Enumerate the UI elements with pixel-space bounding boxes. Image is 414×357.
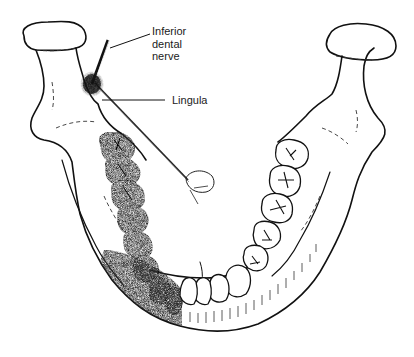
right-teeth: [180, 139, 308, 304]
label-inferior-dental-nerve: Inferior dental nerve: [152, 25, 186, 63]
mandible-diagram: Inferior dental nerve Lingula: [0, 0, 414, 357]
inferior-dental-nerve: [80, 38, 110, 97]
mandible-illustration: [0, 0, 414, 357]
label-lingula: Lingula: [172, 94, 207, 107]
nerve-leader-line: [110, 34, 150, 48]
